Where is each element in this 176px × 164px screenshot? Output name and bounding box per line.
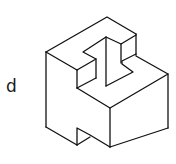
notch-inner-edge bbox=[77, 137, 90, 145]
isometric-block-figure bbox=[0, 0, 176, 164]
slot-floor-left bbox=[77, 78, 96, 88]
bottom-notch bbox=[77, 128, 110, 147]
top-face-left-front-edge bbox=[46, 52, 77, 70]
bottom-left-edge bbox=[46, 127, 77, 145]
bottom-right-edge bbox=[110, 128, 168, 147]
